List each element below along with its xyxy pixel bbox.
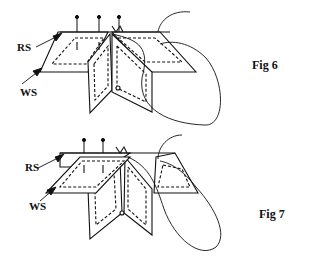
rs-label: RS (17, 42, 31, 53)
pins (82, 138, 104, 153)
figure-7: RS WS Fig 7 (0, 129, 311, 258)
figure-caption: Fig 7 (259, 208, 285, 220)
figure-6: RS WS Fig 6 (0, 0, 311, 129)
right-panel (154, 153, 198, 193)
ws-label: WS (29, 201, 46, 212)
rs-label: RS (25, 162, 39, 173)
figure-caption: Fig 6 (252, 59, 278, 71)
ws-label: WS (20, 87, 37, 98)
fig7-drawing (0, 129, 311, 258)
